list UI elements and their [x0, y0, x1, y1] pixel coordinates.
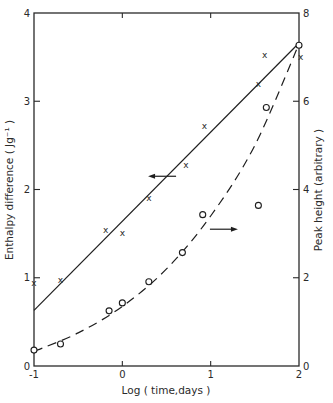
x-marker: x: [183, 160, 189, 170]
circle-marker: [146, 279, 152, 285]
y-tick-label-left: 4: [24, 8, 30, 19]
circle-marker: [263, 104, 269, 110]
y-axis-label-left: Enthalpy difference ( Jg⁻¹ ): [3, 120, 15, 260]
circle-marker: [296, 42, 302, 48]
x-tick-label: 0: [119, 369, 125, 380]
y-tick-label-left: 2: [24, 184, 30, 195]
y-tick-label-right: 4: [303, 184, 309, 195]
x-marker: x: [120, 228, 126, 238]
x-axis-label: Log ( time,days ): [122, 384, 211, 396]
x-tick-label: 2: [296, 369, 302, 380]
y-tick-label-right: 0: [303, 361, 309, 372]
circle-marker: [119, 300, 125, 306]
circle-marker: [255, 202, 261, 208]
circle-marker: [31, 347, 37, 353]
y-axis-label-right: Peak height (arbitrary ): [312, 129, 324, 251]
axis-ticks: -10120123402468: [24, 8, 310, 381]
x-marker: x: [256, 79, 262, 89]
right-arrow-icon: [231, 227, 238, 232]
x-marker: x: [146, 193, 152, 203]
chart-figure: -10120123402468 xxxxxxxxxx Log ( time,da…: [0, 0, 333, 403]
y-tick-label-left: 1: [24, 272, 30, 283]
axes-frame: [34, 13, 299, 366]
plot-border: [34, 13, 299, 366]
dashed-fit-curve: [34, 44, 299, 352]
left-arrow-icon: [148, 174, 155, 179]
y-tick-label-right: 2: [303, 272, 309, 283]
x-tick-label: 1: [207, 369, 213, 380]
y-tick-label-left: 3: [24, 96, 30, 107]
y-tick-label-right: 8: [303, 8, 309, 19]
data-points: xxxxxxxxxx: [31, 42, 304, 353]
x-marker: x: [202, 121, 208, 131]
x-marker: x: [298, 52, 304, 62]
y-tick-label-right: 6: [303, 96, 309, 107]
x-tick-label: -1: [29, 369, 39, 380]
x-marker: x: [103, 225, 109, 235]
x-marker: x: [31, 278, 37, 288]
x-marker: x: [58, 275, 64, 285]
circle-marker: [58, 341, 64, 347]
circle-marker: [106, 308, 112, 314]
x-marker: x: [262, 50, 268, 60]
y-tick-label-left: 0: [24, 361, 30, 372]
circle-marker: [200, 212, 206, 218]
circle-marker: [179, 250, 185, 256]
plot-area: -10120123402468 xxxxxxxxxx Log ( time,da…: [0, 0, 333, 403]
